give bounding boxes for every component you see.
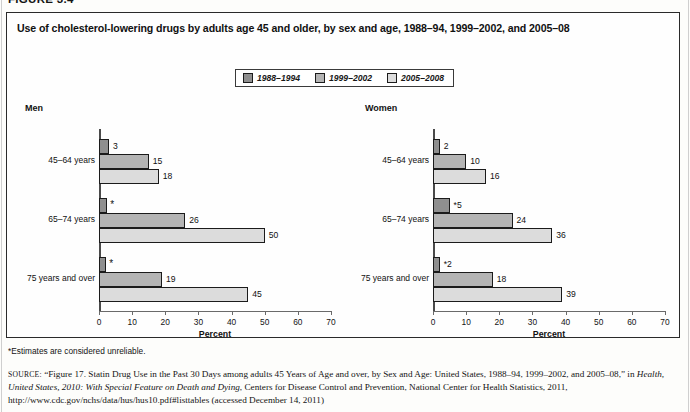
- bar-value-label: 3: [113, 141, 118, 151]
- figure-number: FIGURE 3.4: [8, 0, 74, 5]
- x-axis-tick-label-6: 60: [627, 317, 636, 327]
- bar-men-2-2: [99, 287, 248, 302]
- bar-women-0-1: [433, 154, 466, 169]
- legend-label-2: 2005–2008: [401, 73, 444, 83]
- bar-row: 39: [433, 287, 665, 302]
- panel-men: Men 010203040506070Percent45–64 years315…: [15, 103, 345, 338]
- bar-row: 10: [433, 154, 665, 169]
- bar-row: 24: [433, 213, 665, 228]
- category-label-0: 45–64 years: [48, 155, 95, 165]
- legend-swatch-icon-2: [387, 73, 397, 83]
- legend-item-2: 2005–2008: [387, 73, 444, 83]
- bar-group-women-1: 65–74 years*52436: [433, 198, 665, 243]
- bar-men-0-2: [99, 169, 159, 184]
- legend-label-0: 1988–1994: [257, 73, 300, 83]
- x-axis-tick-6: [632, 311, 633, 315]
- bar-women-1-1: [433, 213, 513, 228]
- bar-value-label: *5: [454, 200, 462, 210]
- x-axis-tick-label-3: 30: [528, 317, 537, 327]
- x-axis-tick-label-4: 40: [561, 317, 570, 327]
- x-axis-tick-7: [665, 311, 666, 315]
- bar-value-label: 18: [163, 171, 173, 181]
- bar-value-label: 2: [444, 141, 449, 151]
- bar-group-men-2: 75 years and over*1945: [99, 257, 331, 302]
- plot-area-men: 010203040506070Percent45–64 years3151865…: [99, 129, 331, 311]
- x-axis-tick-1: [466, 311, 467, 315]
- x-axis-tick-label-0: 0: [431, 317, 436, 327]
- x-axis-tick-6: [298, 311, 299, 315]
- bar-women-2-0: [433, 257, 440, 272]
- bar-row: 2: [433, 139, 665, 154]
- x-axis-title: Percent: [533, 329, 565, 339]
- bar-row: 3: [99, 139, 331, 154]
- figure-title: Use of cholesterol-lowering drugs by adu…: [17, 22, 657, 34]
- x-axis-tick-label-5: 50: [260, 317, 269, 327]
- bar-value-label: *: [110, 200, 114, 210]
- figure-source: SOURCE: “Figure 17. Statin Drug Use in t…: [8, 368, 676, 407]
- bar-row: *: [99, 198, 331, 213]
- x-axis-tick-3: [198, 311, 199, 315]
- x-axis-tick-label-6: 60: [293, 317, 302, 327]
- page-edge-rule-left: [1, 0, 2, 412]
- bar-value-label: 15: [153, 156, 163, 166]
- page-edge-rule-right: [688, 0, 689, 412]
- x-axis-tick-4: [232, 311, 233, 315]
- bar-men-0-0: [99, 139, 109, 154]
- x-axis-tick-1: [132, 311, 133, 315]
- bar-men-2-1: [99, 272, 162, 287]
- legend-swatch-icon-1: [315, 73, 325, 83]
- x-axis-line: [433, 311, 665, 312]
- x-axis-tick-2: [499, 311, 500, 315]
- bar-value-label: 19: [166, 274, 176, 284]
- bar-value-label: *2: [444, 259, 452, 269]
- bar-row: 50: [99, 228, 331, 243]
- x-axis-line: [99, 311, 331, 312]
- x-axis-tick-5: [265, 311, 266, 315]
- bar-men-1-1: [99, 213, 185, 228]
- bar-group-women-0: 45–64 years21016: [433, 139, 665, 184]
- bar-women-1-0: [433, 198, 450, 213]
- bar-women-0-2: [433, 169, 486, 184]
- category-label-1: 65–74 years: [382, 214, 429, 224]
- bar-row: 15: [99, 154, 331, 169]
- bar-row: 36: [433, 228, 665, 243]
- bar-men-2-0: [99, 257, 106, 272]
- category-label-2: 75 years and over: [361, 273, 429, 283]
- category-label-0: 45–64 years: [382, 155, 429, 165]
- source-quote: “Figure 17. Statin Drug Use in the Past …: [44, 369, 637, 379]
- bar-men-1-0: [99, 198, 107, 213]
- chart-legend: 1988–19941999–20022005–2008: [235, 69, 454, 87]
- x-axis-title: Percent: [199, 329, 231, 339]
- panel-women: Women 010203040506070Percent45–64 years2…: [355, 103, 677, 338]
- bar-women-2-2: [433, 287, 562, 302]
- bar-value-label: 18: [497, 274, 507, 284]
- x-axis-tick-5: [599, 311, 600, 315]
- bar-value-label: 36: [556, 230, 566, 240]
- bar-women-0-0: [433, 139, 440, 154]
- bar-value-label: 24: [517, 215, 527, 225]
- panel-heading-women: Women: [365, 103, 397, 113]
- legend-swatch-icon-0: [243, 73, 253, 83]
- bar-row: 45: [99, 287, 331, 302]
- x-axis-tick-label-1: 10: [127, 317, 136, 327]
- bar-row: *5: [433, 198, 665, 213]
- legend-item-1: 1999–2002: [315, 73, 372, 83]
- bar-group-men-1: 65–74 years*2650: [99, 198, 331, 243]
- bar-row: 26: [99, 213, 331, 228]
- plot-area-women: 010203040506070Percent45–64 years2101665…: [433, 129, 665, 311]
- bar-row: *: [99, 257, 331, 272]
- category-label-2: 75 years and over: [27, 273, 95, 283]
- bar-value-label: 26: [189, 215, 199, 225]
- x-axis-tick-label-2: 20: [495, 317, 504, 327]
- x-axis-tick-4: [566, 311, 567, 315]
- x-axis-tick-label-3: 30: [194, 317, 203, 327]
- bar-value-label: 50: [269, 230, 279, 240]
- x-axis-tick-label-5: 50: [594, 317, 603, 327]
- bar-value-label: *: [109, 259, 113, 269]
- bar-women-1-2: [433, 228, 552, 243]
- legend-label-1: 1999–2002: [329, 73, 372, 83]
- source-prefix: SOURCE:: [8, 370, 42, 379]
- x-axis-tick-label-1: 10: [461, 317, 470, 327]
- x-axis-tick-0: [433, 311, 434, 315]
- bar-row: *2: [433, 257, 665, 272]
